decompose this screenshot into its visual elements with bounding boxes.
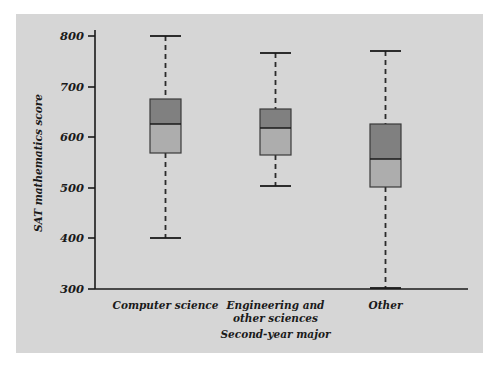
y-tick-label-400: 400	[60, 231, 84, 245]
y-tick-label-600: 600	[60, 130, 84, 144]
box-upper-half-1	[150, 99, 181, 124]
box-upper-half-3	[370, 124, 401, 159]
y-tick-label-300: 300	[60, 282, 84, 296]
x-category-label-2-line1: Engineering and	[226, 299, 326, 311]
x-category-label-1: Computer science	[113, 299, 219, 311]
figure-canvas: 800 700 600 500 400 300 SAT mathematics …	[0, 0, 500, 372]
box-upper-half-2	[260, 109, 291, 128]
box-group-other	[370, 51, 401, 288]
y-tick-label-500: 500	[60, 181, 84, 195]
y-tick-label-700: 700	[60, 80, 84, 94]
box-lower-half-2	[260, 128, 291, 155]
box-lower-half-3	[370, 159, 401, 187]
box-group-computer-science	[150, 36, 181, 238]
box-group-engineering	[260, 53, 291, 186]
box-lower-half-1	[150, 124, 181, 153]
boxplot-chart: 800 700 600 500 400 300 SAT mathematics …	[0, 0, 500, 372]
y-tick-label-800: 800	[60, 29, 84, 43]
x-category-label-2-line2: other sciences	[233, 312, 318, 324]
x-category-label-3: Other	[369, 299, 404, 311]
x-axis-label: Second-year major	[220, 328, 331, 340]
y-axis-label: SAT mathematics score	[32, 94, 44, 232]
